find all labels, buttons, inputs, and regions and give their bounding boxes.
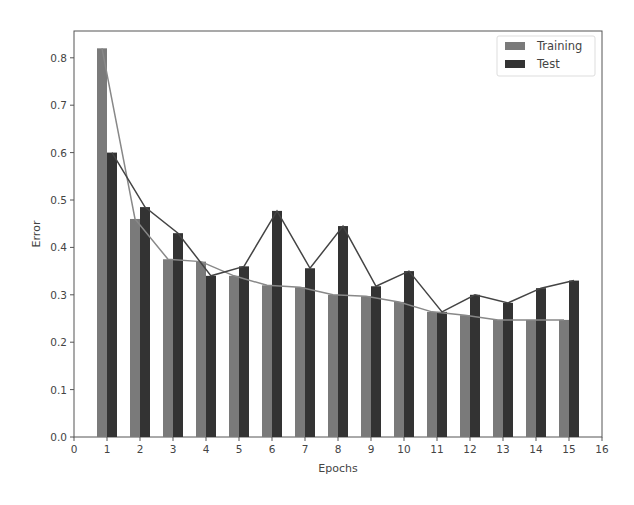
x-tick-label: 7 bbox=[302, 443, 309, 455]
bar-training-epoch-2 bbox=[130, 219, 140, 437]
legend-label-training: Training bbox=[536, 39, 582, 53]
bar-training-epoch-3 bbox=[163, 259, 173, 437]
bar-test-epoch-4 bbox=[206, 276, 216, 437]
y-tick-label: 0.2 bbox=[50, 336, 67, 348]
x-tick-label: 14 bbox=[529, 443, 543, 455]
y-axis-label: Error bbox=[30, 220, 43, 247]
y-tick-label: 0.6 bbox=[50, 147, 67, 159]
y-tick-label: 0.1 bbox=[50, 384, 67, 396]
x-tick-label: 6 bbox=[269, 443, 276, 455]
bar-test-epoch-14 bbox=[536, 288, 546, 437]
x-axis-ticks: 012345678910111213141516 bbox=[71, 437, 609, 455]
bar-test-epoch-1 bbox=[107, 153, 117, 437]
x-tick-label: 11 bbox=[430, 443, 443, 455]
legend-label-test: Test bbox=[536, 57, 560, 71]
y-axis-ticks: 0.00.10.20.30.40.50.60.70.8 bbox=[50, 52, 74, 443]
bar-training-epoch-10 bbox=[394, 302, 404, 437]
bar-test-epoch-6 bbox=[272, 211, 282, 437]
bar-chart: 0.00.10.20.30.40.50.60.70.8 012345678910… bbox=[0, 0, 634, 505]
bar-test-epoch-7 bbox=[305, 268, 315, 437]
legend-swatch-test bbox=[505, 60, 525, 68]
y-tick-label: 0.4 bbox=[50, 241, 67, 253]
y-tick-label: 0.7 bbox=[50, 99, 67, 111]
y-tick-label: 0.3 bbox=[50, 289, 67, 301]
x-tick-label: 15 bbox=[562, 443, 575, 455]
bar-training-epoch-4 bbox=[196, 262, 206, 437]
bar-test-epoch-2 bbox=[140, 207, 150, 437]
x-tick-label: 13 bbox=[496, 443, 509, 455]
bar-test-epoch-15 bbox=[569, 281, 579, 437]
bar-test-epoch-8 bbox=[338, 226, 348, 437]
bar-training-epoch-12 bbox=[460, 315, 470, 437]
x-tick-label: 1 bbox=[104, 443, 111, 455]
bar-training-epoch-7 bbox=[295, 287, 305, 437]
y-tick-label: 0.0 bbox=[50, 431, 67, 443]
y-tick-label: 0.8 bbox=[50, 52, 67, 64]
bar-training-epoch-6 bbox=[262, 285, 272, 437]
bar-test-epoch-10 bbox=[404, 271, 414, 437]
bar-training-epoch-11 bbox=[427, 312, 437, 437]
x-axis-label: Epochs bbox=[318, 462, 358, 475]
x-tick-label: 12 bbox=[463, 443, 476, 455]
x-tick-label: 3 bbox=[170, 443, 177, 455]
legend-swatch-training bbox=[505, 42, 525, 50]
bar-training-epoch-9 bbox=[361, 296, 371, 437]
bar-training-epoch-8 bbox=[328, 295, 338, 437]
y-tick-label: 0.5 bbox=[50, 194, 67, 206]
bar-test-epoch-5 bbox=[239, 266, 249, 437]
bar-training-epoch-1 bbox=[97, 48, 107, 437]
bar-test-epoch-3 bbox=[173, 233, 183, 437]
x-tick-label: 9 bbox=[368, 443, 375, 455]
bar-training-epoch-15 bbox=[559, 320, 569, 437]
x-tick-label: 2 bbox=[137, 443, 144, 455]
bar-training-epoch-13 bbox=[493, 320, 503, 437]
legend: Training Test bbox=[497, 36, 595, 76]
x-tick-label: 5 bbox=[236, 443, 243, 455]
bar-test-epoch-13 bbox=[503, 303, 513, 437]
bar-training-epoch-5 bbox=[229, 276, 239, 437]
bar-training-epoch-14 bbox=[526, 320, 536, 437]
x-tick-label: 16 bbox=[595, 443, 609, 455]
x-tick-label: 10 bbox=[397, 443, 410, 455]
x-tick-label: 0 bbox=[71, 443, 78, 455]
bar-test-epoch-11 bbox=[437, 312, 447, 437]
x-tick-label: 8 bbox=[335, 443, 342, 455]
x-tick-label: 4 bbox=[203, 443, 210, 455]
bar-test-epoch-9 bbox=[371, 286, 381, 437]
